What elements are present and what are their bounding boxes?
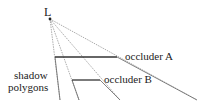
shadow-label-line1: shadow: [14, 70, 48, 81]
shadow-label-line2: polygons: [8, 82, 48, 93]
light-label: L: [44, 6, 51, 18]
ray-b-right: [50, 19, 120, 100]
shadow-edge-a-left: [55, 57, 60, 100]
occluder-a-label: occluder A: [125, 51, 173, 62]
occluder-b-label: occluder B: [104, 74, 152, 85]
shadow-edge-b-left: [72, 80, 79, 100]
